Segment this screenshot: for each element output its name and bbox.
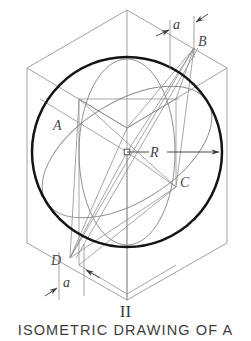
dim-top-arrow-right xyxy=(196,14,208,22)
body-diagonal-d-to-b-2 xyxy=(76,48,198,258)
point-c-label: C xyxy=(180,175,190,190)
isometric-figure: R a a A B C D II ISOMETRIC DRAWING OF A xyxy=(0,0,251,341)
fan-b-1 xyxy=(127,48,194,128)
dim-bottom-arrow-right xyxy=(86,270,100,278)
dim-bottom-arrow-left xyxy=(45,288,57,296)
point-a-label: A xyxy=(52,118,62,133)
construction-diag-left-low xyxy=(79,187,176,265)
dimension-top-label: a xyxy=(173,17,180,32)
figure-caption-block: II ISOMETRIC DRAWING OF A xyxy=(0,304,251,339)
point-d-label: D xyxy=(50,253,61,268)
radius-label: R xyxy=(149,145,159,160)
point-b-label: B xyxy=(198,34,207,49)
dimension-bottom-label: a xyxy=(63,275,70,290)
construction-rhombus-lower xyxy=(79,265,176,294)
figure-caption: ISOMETRIC DRAWING OF A xyxy=(0,321,251,339)
technical-drawing-canvas: R a a A B C D xyxy=(0,0,251,341)
figure-number: II xyxy=(0,304,251,321)
fan-b-3 xyxy=(176,48,194,187)
radius-dimension: R xyxy=(127,143,219,160)
